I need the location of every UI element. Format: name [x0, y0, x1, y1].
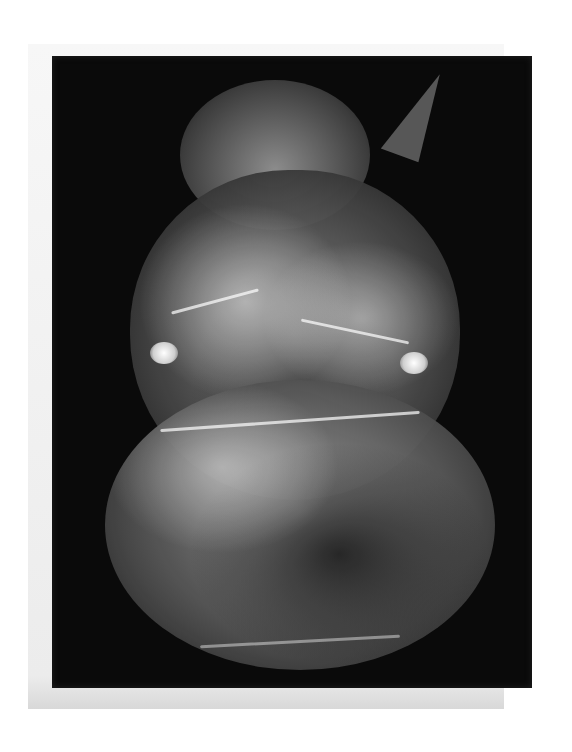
- bag-knot-left: [150, 342, 178, 364]
- bag-knot-right: [400, 352, 428, 374]
- plastic-bag-lower: [105, 380, 495, 670]
